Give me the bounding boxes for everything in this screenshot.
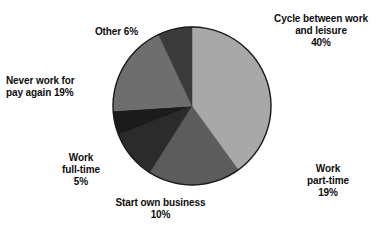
pie-label-work-full-time: Work full-time 5%: [48, 152, 114, 188]
pie-label-never-work-for-pay-again: Never work for pay again 19%: [6, 75, 112, 99]
pie-label-work-part-time: Work part-time 19%: [288, 163, 368, 199]
pie-label-cycle-between-work-and-leisure: Cycle between work and leisure 40%: [264, 13, 378, 49]
pie-slice-group: [113, 27, 271, 185]
pie-label-other: Other 6%: [60, 26, 138, 38]
pie-label-start-own-business: Start own business 10%: [98, 197, 223, 221]
pie-chart: Cycle between work and leisure 40% Work …: [0, 0, 379, 237]
